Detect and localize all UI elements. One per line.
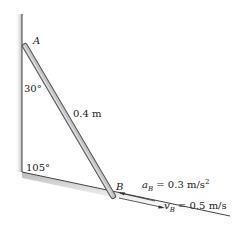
acceleration-exponent: 2 [205, 178, 209, 186]
vertical-wall [15, 14, 22, 172]
acceleration-subscript: B [148, 185, 153, 193]
velocity-label: vB = 0.5 m/s [164, 201, 227, 211]
rod-length-label: 0.4 m [73, 109, 102, 119]
rod-AB [24, 46, 113, 196]
diagram-canvas: A 30° 0.4 m 105° B aB = 0.3 m/s2 vB = 0.… [0, 0, 233, 229]
point-B-label: B [116, 182, 123, 192]
acceleration-value: = 0.3 m/s [153, 179, 205, 190]
bottom-angle-label: 105° [26, 163, 50, 173]
velocity-symbol: v [164, 200, 170, 211]
point-A-label: A [33, 36, 40, 46]
velocity-value: = 0.5 m/s [175, 200, 227, 211]
top-angle-label: 30° [24, 84, 42, 94]
velocity-subscript: B [170, 206, 175, 214]
acceleration-label: aB = 0.3 m/s2 [142, 180, 209, 190]
